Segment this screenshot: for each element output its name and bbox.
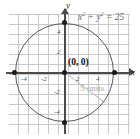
point-origin bbox=[62, 70, 67, 75]
x-tick-label--4: -4 bbox=[21, 76, 27, 83]
equation-y-exponent: 2 bbox=[101, 11, 104, 17]
equation-rhs: 25 bbox=[115, 12, 125, 22]
y-tick-label-2: 2 bbox=[57, 49, 61, 56]
equation-plus: + bbox=[88, 12, 94, 22]
y-tick-label--4: -4 bbox=[54, 109, 60, 116]
origin-annotation: (0, 0) bbox=[68, 58, 89, 68]
point-left-intercept bbox=[12, 70, 17, 75]
point-bottom-intercept bbox=[62, 120, 67, 125]
equation-equals: = bbox=[106, 12, 112, 22]
equation-annotation: x2 + y2 = 25 bbox=[78, 13, 124, 23]
y-tick-label--2: -2 bbox=[54, 89, 60, 96]
y-tick-label-4: 4 bbox=[57, 29, 61, 36]
x-tick-label-2: 2 bbox=[76, 76, 80, 83]
circle-graph-figure: x y -4 -2 2 4 4 2 -2 -4 (0, 0) 5 units x… bbox=[0, 0, 140, 139]
x-tick-label-4: 4 bbox=[96, 76, 100, 83]
x-tick-label--2: -2 bbox=[41, 76, 47, 83]
point-top-intercept bbox=[62, 20, 67, 25]
y-axis-label: y bbox=[66, 1, 70, 10]
radius-annotation: 5 units bbox=[80, 84, 104, 93]
x-axis-label: x bbox=[131, 68, 135, 77]
equation-x-exponent: 2 bbox=[82, 11, 85, 17]
point-right-intercept bbox=[112, 70, 117, 75]
